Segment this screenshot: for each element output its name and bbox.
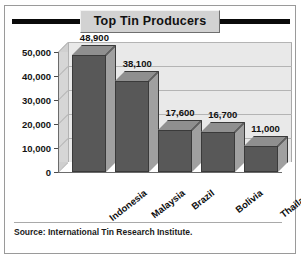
bar-value-label: 16,700 [208,109,237,120]
bar [244,136,278,172]
bar-front-face [115,81,149,172]
bar-value-label: 11,000 [251,123,280,134]
chart-title-box: Top Tin Producers [80,10,220,33]
bar [158,120,192,172]
bar-front-face [244,146,278,172]
bar [72,45,106,172]
axis-back-vertical [68,42,69,162]
bar [201,122,235,172]
y-tick [54,52,58,53]
y-tick-label: 40,000 [22,71,51,82]
bar-value-label: 17,600 [165,107,194,118]
y-tick-label: 50,000 [22,47,51,58]
y-tick-label: 30,000 [22,95,51,106]
bar-front-face [158,130,192,172]
source-note: Source: International Tin Research Insti… [14,227,192,237]
chart-card: Top Tin Producers 48,90038,10017,60016,7… [0,0,301,259]
x-axis-line [58,172,282,173]
y-tick-label: 20,000 [22,119,51,130]
y-tick [54,124,58,125]
bar-front-face [201,132,235,172]
chart-title: Top Tin Producers [94,15,207,28]
source-rule [14,222,282,223]
y-tick-label: 0 [46,167,51,178]
y-tick [54,172,58,173]
bar-front-face [72,55,106,172]
y-axis-line [58,52,59,172]
plot-area: 48,90038,10017,60016,70011,000 [58,42,292,172]
y-tick-label: 10,000 [22,143,51,154]
bar [115,71,149,172]
y-tick [54,100,58,101]
y-tick [54,76,58,77]
y-tick [54,148,58,149]
y-axis-title: Metric Tons [0,27,1,93]
bar-value-label: 48,900 [80,32,109,43]
bar-value-label: 38,100 [123,58,152,69]
